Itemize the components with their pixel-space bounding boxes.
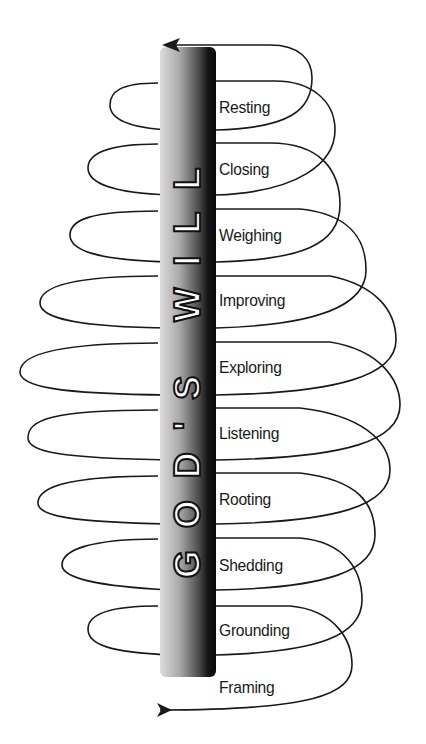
stage-label-closing: Closing — [219, 160, 269, 180]
stage-label-shedding: Shedding — [219, 556, 283, 576]
spiral-svg — [0, 0, 426, 744]
arrow-bottom-start-icon — [157, 703, 172, 717]
stage-label-framing: Framing — [219, 678, 274, 698]
stage-label-listening: Listening — [219, 424, 279, 444]
stage-label-improving: Improving — [219, 291, 285, 311]
stage-label-weighing: Weighing — [219, 226, 282, 246]
pole-title: GOD'S WILL — [167, 146, 209, 579]
spiral-back-loops — [20, 83, 170, 655]
stage-label-exploring: Exploring — [219, 358, 282, 378]
stage-label-grounding: Grounding — [219, 621, 290, 641]
stage-label-resting: Resting — [219, 98, 270, 118]
stage-label-rooting: Rooting — [219, 490, 271, 510]
god-will-spiral-diagram: GOD'S WILL Resting Closing Weighing Impr… — [0, 0, 426, 744]
